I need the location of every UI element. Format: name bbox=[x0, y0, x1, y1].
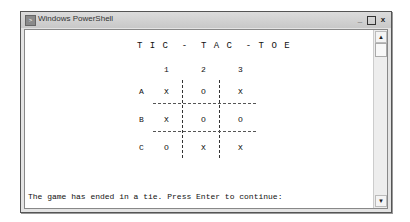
cell-b1: X bbox=[164, 115, 169, 124]
scroll-down-arrow-icon[interactable]: ▼ bbox=[375, 195, 387, 207]
cell-a1: X bbox=[164, 87, 169, 96]
status-message: The game has ended in a tie. Press Enter… bbox=[28, 192, 282, 201]
maximize-button[interactable] bbox=[367, 16, 376, 25]
cell-a2: O bbox=[201, 87, 206, 96]
row-label-b: B bbox=[139, 115, 144, 124]
row-label-a: A bbox=[139, 87, 144, 96]
grid-vertical-line-2 bbox=[219, 80, 220, 158]
cell-b2: O bbox=[201, 115, 206, 124]
cell-c2: X bbox=[201, 143, 206, 152]
column-header-3: 3 bbox=[238, 65, 243, 74]
grid-vertical-line-1 bbox=[182, 80, 183, 158]
powershell-window: > Windows PowerShell _ x T I C - T A C -… bbox=[20, 11, 392, 213]
window-title: Windows PowerShell bbox=[38, 14, 113, 23]
minimize-button[interactable]: _ bbox=[355, 15, 365, 25]
powershell-icon: > bbox=[25, 15, 36, 26]
cell-c3: X bbox=[238, 143, 243, 152]
close-button[interactable]: x bbox=[378, 15, 388, 25]
row-label-c: C bbox=[139, 143, 144, 152]
scroll-up-arrow-icon[interactable]: ▲ bbox=[375, 31, 387, 43]
cell-a3: X bbox=[238, 87, 243, 96]
game-title: T I C - T A C - T O E bbox=[137, 41, 291, 51]
cell-b3: O bbox=[238, 115, 243, 124]
column-header-2: 2 bbox=[201, 65, 206, 74]
grid-horizontal-line-2 bbox=[153, 131, 256, 132]
console-area[interactable]: T I C - T A C - T O E 1 2 3 A X O X B X … bbox=[24, 29, 388, 209]
title-bar[interactable]: > Windows PowerShell _ x bbox=[21, 12, 391, 28]
scrollbar-thumb[interactable] bbox=[375, 43, 387, 57]
column-header-1: 1 bbox=[164, 65, 169, 74]
grid-horizontal-line-1 bbox=[153, 103, 256, 104]
cell-c1: O bbox=[164, 143, 169, 152]
vertical-scrollbar[interactable]: ▲ ▼ bbox=[373, 30, 387, 208]
